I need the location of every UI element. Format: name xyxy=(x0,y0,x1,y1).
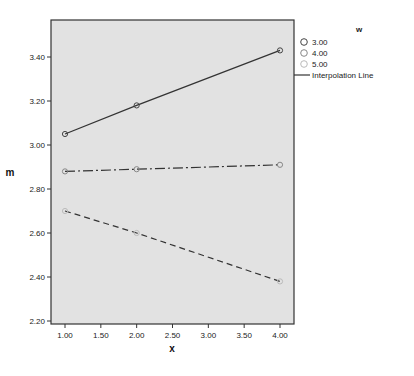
x-tick-label: 3.00 xyxy=(201,331,217,340)
x-tick-label: 4.00 xyxy=(272,331,288,340)
legend-label-interpolation: Interpolation Line xyxy=(312,71,374,80)
x-tick-label: 2.00 xyxy=(129,331,145,340)
legend-marker-icon xyxy=(301,39,308,46)
legend-title: w xyxy=(355,25,363,34)
y-tick-label: 2.80 xyxy=(29,185,45,194)
y-tick-label: 2.40 xyxy=(29,273,45,282)
x-tick-label: 3.50 xyxy=(236,331,252,340)
x-tick-label: 2.50 xyxy=(165,331,181,340)
legend-label: 5.00 xyxy=(312,60,328,69)
y-tick-label: 3.00 xyxy=(29,141,45,150)
y-tick-label: 2.20 xyxy=(29,317,45,326)
y-axis-title: m xyxy=(6,167,15,178)
plot-area xyxy=(51,20,294,324)
x-tick-label: 1.50 xyxy=(93,331,109,340)
y-tick-label: 3.20 xyxy=(29,97,45,106)
y-tick-label: 2.60 xyxy=(29,229,45,238)
legend-marker-icon xyxy=(301,50,308,57)
line-chart: 2.202.402.602.803.003.203.40 1.001.502.0… xyxy=(0,0,414,376)
y-axis: 2.202.402.602.803.003.203.40 xyxy=(29,53,51,326)
legend-label: 4.00 xyxy=(312,49,328,58)
x-axis: 1.001.502.002.503.003.504.00 xyxy=(57,324,288,340)
y-tick-label: 3.40 xyxy=(29,53,45,62)
legend: w 3.004.005.00Interpolation Line xyxy=(294,25,374,80)
legend-marker-icon xyxy=(301,61,308,68)
x-tick-label: 1.00 xyxy=(57,331,73,340)
x-axis-title: x xyxy=(169,343,175,354)
legend-label: 3.00 xyxy=(312,38,328,47)
